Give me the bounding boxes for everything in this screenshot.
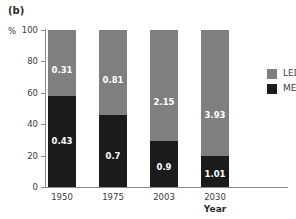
bar-label-ledc-2030: 3.93	[201, 111, 229, 120]
bar-group-2003[interactable]: 2.15 0.9	[150, 30, 178, 187]
y-tick-mark-100	[41, 30, 45, 31]
bar-label-medc-1975: 0.7	[99, 152, 127, 161]
y-tick-mark-60	[41, 93, 45, 94]
legend-swatch-medcs-icon	[267, 84, 277, 94]
y-tick-label-40: 40	[8, 120, 38, 129]
legend-label-medcs: MEDCs	[283, 84, 296, 93]
y-tick-label-0: 0	[8, 183, 38, 192]
bar-label-medc-2030: 1.01	[201, 170, 229, 179]
bar-group-2030[interactable]: 3.93 1.01	[201, 30, 229, 187]
legend: LEDCs MEDCs	[261, 61, 296, 101]
y-tick-mark-40	[41, 124, 45, 125]
y-tick-mark-80	[41, 61, 45, 62]
bar-label-medc-2003: 0.9	[150, 163, 178, 172]
x-tick-label-1975: 1975	[90, 192, 136, 202]
y-tick-label-20: 20	[8, 152, 38, 161]
bar-segment-ledc-1975[interactable]	[99, 30, 127, 115]
legend-label-ledcs: LEDCs	[283, 69, 296, 78]
y-tick-label-60: 60	[8, 89, 38, 98]
bar-label-ledc-1975: 0.81	[99, 76, 127, 85]
legend-swatch-ledcs-icon	[267, 69, 277, 79]
bar-segment-ledc-1950[interactable]	[48, 30, 76, 96]
bar-group-1975[interactable]: 0.81 0.7	[99, 30, 127, 187]
x-tick-label-2030: 2030	[192, 192, 238, 202]
bar-segment-ledc-2030[interactable]	[201, 30, 229, 156]
bar-label-ledc-1950: 0.31	[48, 66, 76, 75]
y-tick-label-100: 100	[8, 26, 38, 35]
plot-region: 0.31 0.43 0.81 0.7 2.15 0.9 3.93 1.01	[46, 30, 288, 187]
stacked-bar-chart: (b) % 100 80 60 40 20 0 0.31 0.43 0.81 0…	[0, 0, 296, 219]
bar-segment-ledc-2003[interactable]	[150, 30, 178, 141]
x-tick-label-1950: 1950	[39, 192, 85, 202]
bar-group-1950[interactable]: 0.31 0.43	[48, 30, 76, 187]
bar-label-ledc-2003: 2.15	[150, 98, 178, 107]
y-tick-mark-0	[41, 187, 45, 188]
panel-label: (b)	[8, 5, 24, 16]
bar-label-medc-1950: 0.43	[48, 137, 76, 146]
y-tick-label-80: 80	[8, 57, 38, 66]
x-axis-title: Year	[192, 204, 238, 214]
legend-item-medcs[interactable]: MEDCs	[267, 81, 296, 96]
x-tick-label-2003: 2003	[141, 192, 187, 202]
y-tick-mark-20	[41, 156, 45, 157]
legend-item-ledcs[interactable]: LEDCs	[267, 66, 296, 81]
x-axis-line	[45, 187, 288, 188]
